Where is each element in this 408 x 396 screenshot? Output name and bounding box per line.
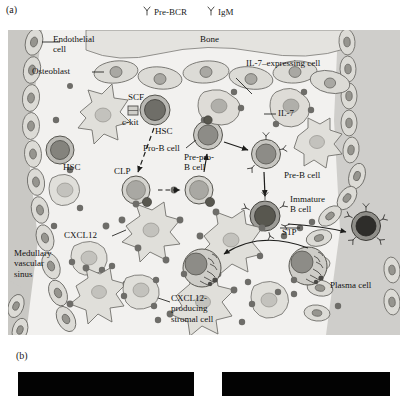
panel-b-letter: (b) [16,350,28,361]
label-bone: Bone [200,34,219,44]
hsc-left-cell [46,136,74,164]
label-endothelial-cell: Endothelial cell [53,34,95,55]
y-shaped-receptor-icon [207,6,215,18]
label-pre-b-cell: Pre-B cell [284,170,320,180]
micrograph-right [222,372,390,396]
label-cxcl12-producing-stromal-cell: CXCL12- producing stromal cell [171,293,213,324]
legend-item-igm: IgM [207,6,234,18]
hsc-top-cell [140,95,170,125]
label-scf: SCF [128,92,144,102]
label-pro-b-cell: Pro-B cell [143,143,180,153]
label-hsc-left: HSC [63,162,81,172]
bone-marrow-diagram: Endothelial cell Bone Osteoblast SCF c-k… [8,30,400,335]
panel-a-letter: (a) [6,4,17,15]
label-il7: IL-7 [278,108,294,118]
label-il7-expressing-cell: IL-7–expressing cell [246,58,320,68]
legend-label-igm: IgM [218,7,234,17]
label-pre-pro-b-cell: Pre-pro- B cell [184,152,214,173]
label-plasma-cell: Plasma cell [330,280,371,290]
legend-item-pre-bcr: Pre-BCR [143,6,187,18]
y-shaped-receptor-icon [143,6,151,18]
scf-c-kit-receptor [128,106,138,115]
micrograph-left [18,372,194,396]
label-hsc-top: HSC [155,126,173,136]
legend-label-pre-bcr: Pre-BCR [154,7,187,17]
label-osteoblast: Osteoblast [32,66,70,76]
plasma-cell-left [183,249,221,287]
legend: Pre-BCR IgM [143,6,234,18]
label-medullary-vascular-sinus: Medullary vascular sinus [14,248,52,279]
panel-b-micrographs [0,366,408,390]
stromal-blob-upper-left [49,174,80,205]
label-clp: CLP [114,166,131,176]
label-s1p: S1P [282,227,297,237]
label-cxcl12: CXCL12 [64,230,97,240]
label-immature-b-cell: Immature B cell [290,194,325,215]
label-c-kit: c-kit [122,117,139,127]
